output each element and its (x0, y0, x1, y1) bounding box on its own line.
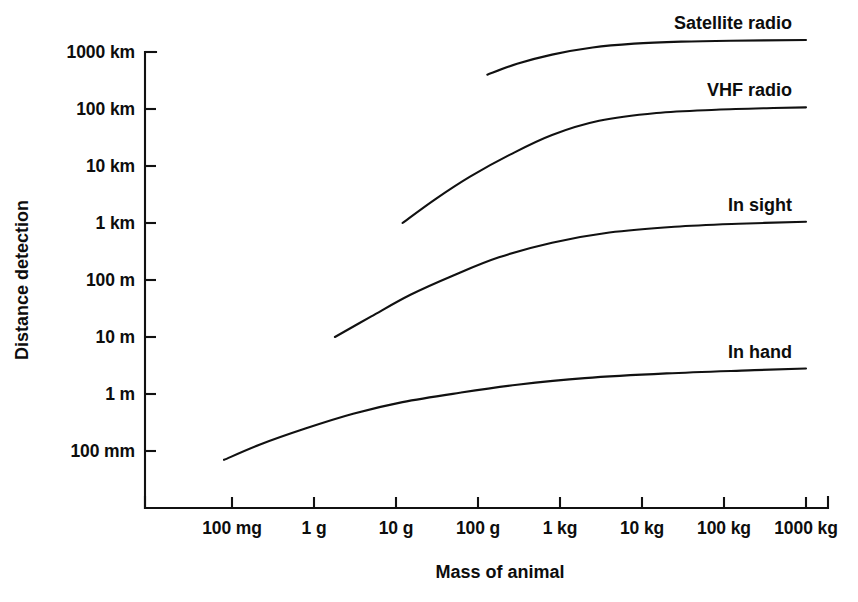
curve-labels: In handIn sightVHF radioSatellite radio (674, 13, 792, 361)
y-tick-label: 10 m (96, 327, 136, 347)
y-tick-label: 10 km (86, 156, 135, 176)
y-tick-label: 100 km (76, 99, 135, 119)
x-axis-tick-labels: 100 mg1 g10 g100 g1 kg10 kg100 kg1000 kg (202, 518, 838, 538)
curve-label-satellite-radio: Satellite radio (674, 13, 792, 33)
curve-label-in-sight: In sight (728, 195, 792, 215)
y-tick-label: 100 m (86, 270, 135, 290)
y-tick-label: 1000 km (67, 42, 135, 62)
curve-satellite-radio (487, 40, 806, 75)
x-tick-label: 1 kg (543, 518, 578, 538)
x-tick-label: 100 mg (202, 518, 262, 538)
figure-container: 1000 km100 km10 km1 km100 m10 m1 m100 mm… (0, 0, 858, 602)
y-axis-ticks (145, 52, 156, 451)
x-tick-label: 1000 kg (774, 518, 838, 538)
x-axis-title: Mass of animal (435, 562, 564, 582)
y-axis-tick-labels: 1000 km100 km10 km1 km100 m10 m1 m100 mm (67, 42, 135, 461)
y-tick-label: 1 m (105, 384, 135, 404)
curve-in-hand (224, 369, 806, 460)
y-tick-label: 100 mm (70, 441, 135, 461)
x-axis-spine (145, 497, 828, 508)
y-tick-label: 1 km (96, 213, 136, 233)
y-axis-title: Distance detection (12, 200, 32, 360)
curve-in-sight (335, 222, 806, 337)
x-tick-label: 10 g (379, 518, 414, 538)
x-tick-label: 100 g (456, 518, 500, 538)
x-axis-ticks (232, 497, 806, 508)
x-tick-label: 10 kg (620, 518, 664, 538)
detection-distance-chart: 1000 km100 km10 km1 km100 m10 m1 m100 mm… (0, 0, 858, 602)
curve-label-vhf-radio: VHF radio (707, 80, 792, 100)
curve-label-in-hand: In hand (728, 342, 792, 362)
x-tick-label: 1 g (302, 518, 327, 538)
x-tick-label: 100 kg (697, 518, 751, 538)
data-curves (224, 40, 806, 460)
